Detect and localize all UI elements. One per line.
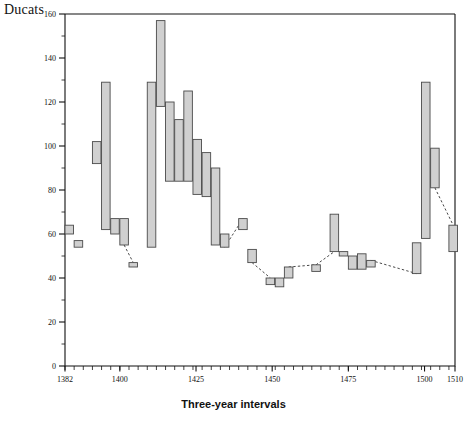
range-bar	[358, 254, 367, 269]
range-bar	[220, 234, 229, 247]
svg-text:1475: 1475	[340, 375, 356, 384]
range-bar	[166, 102, 175, 181]
range-bar	[266, 278, 275, 285]
chart-plot-area: 020406080100120140160 138214001425145014…	[0, 0, 467, 424]
svg-text:100: 100	[44, 142, 56, 151]
range-bar	[275, 278, 284, 287]
range-bar	[175, 120, 184, 182]
svg-text:60: 60	[48, 230, 56, 239]
range-bar	[129, 263, 138, 267]
range-bar	[367, 260, 376, 267]
connector-lines	[124, 188, 453, 278]
svg-text:1382: 1382	[57, 375, 73, 384]
range-bar	[248, 249, 257, 262]
range-bar	[312, 265, 321, 272]
svg-text:1510: 1510	[447, 375, 463, 384]
svg-text:140: 140	[44, 54, 56, 63]
range-bar	[193, 139, 202, 194]
x-axis-ticks: 1382140014251450147515001510	[57, 366, 463, 384]
range-bar	[65, 225, 74, 234]
range-bar	[449, 225, 458, 251]
svg-text:120: 120	[44, 98, 56, 107]
svg-text:1450: 1450	[264, 375, 280, 384]
range-bar	[111, 219, 120, 234]
range-bars	[65, 21, 457, 287]
svg-text:40: 40	[48, 274, 56, 283]
range-bar	[330, 214, 339, 251]
y-axis-ticks: 020406080100120140160	[44, 10, 65, 371]
range-bar	[92, 142, 101, 164]
range-bar	[348, 256, 357, 269]
range-bar	[156, 21, 165, 107]
range-bar	[431, 148, 440, 188]
range-bar	[412, 243, 421, 274]
range-bar	[284, 267, 293, 278]
range-bar	[239, 219, 248, 230]
svg-text:0: 0	[52, 362, 56, 371]
range-bar	[211, 168, 220, 245]
svg-text:1425: 1425	[188, 375, 204, 384]
range-bar	[184, 91, 193, 181]
svg-text:20: 20	[48, 318, 56, 327]
range-bar	[421, 82, 430, 238]
svg-text:160: 160	[44, 10, 56, 19]
axis-lines	[65, 14, 455, 366]
range-bar	[74, 241, 83, 248]
svg-text:1500: 1500	[417, 375, 433, 384]
range-bar	[120, 219, 129, 245]
range-bar	[102, 82, 111, 229]
range-bar	[202, 153, 211, 197]
chart-figure: Ducats Three-year intervals 020406080100…	[0, 0, 467, 424]
range-bar	[339, 252, 348, 256]
svg-text:80: 80	[48, 186, 56, 195]
range-bar	[147, 82, 156, 247]
svg-text:1400: 1400	[112, 375, 128, 384]
